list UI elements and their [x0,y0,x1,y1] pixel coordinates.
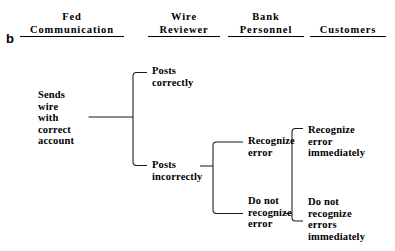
bracket-bank-personnel [213,142,243,214]
column-header-line1: Wire [148,10,220,23]
column-header-line1: Bank [228,10,304,23]
column-header-line2: Reviewer [148,23,220,37]
node-line: correctly [152,77,193,89]
node-line: Do not [248,195,292,207]
column-header-bank-personnel: Bank Personnel [228,10,304,37]
node-line: correct [38,124,74,136]
column-header-line1: Fed [20,10,124,23]
column-header-line2: Customers [310,23,386,37]
node-line: immediately [308,147,365,159]
node-line: Posts [152,65,193,77]
node-sends-wire-with-correct-account: Sends wire with correct account [38,89,74,147]
column-header-fed-communication: Fed Communication [20,10,124,37]
column-header-wire-reviewer: Wire Reviewer [148,10,220,37]
node-do-not-recognize-error: Do not recognize error [248,195,292,230]
node-line: account [38,135,74,147]
panel-label: b [6,32,14,45]
node-line: error [248,218,292,230]
node-recognize-error: Recognize error [248,135,295,158]
node-line: with [38,112,74,124]
node-line: error [308,136,365,148]
node-line: Sends [38,89,74,101]
node-line: Posts [152,159,202,171]
column-header-line2: Personnel [228,23,304,37]
node-line: recognize [248,207,292,219]
node-line: incorrectly [152,171,202,183]
bracket-wire-reviewer [133,73,147,166]
node-line: wire [38,101,74,113]
node-posts-correctly: Posts correctly [152,65,193,88]
diagram-canvas: b Fed Communication Wire Reviewer Bank P… [0,0,395,251]
node-line: Do not [308,196,365,208]
node-line: recognize [308,208,365,220]
node-posts-incorrectly: Posts incorrectly [152,159,202,182]
node-recognize-error-immediately: Recognize error immediately [308,124,365,159]
node-line: Recognize [248,135,295,147]
node-line: immediately [308,231,365,243]
node-line: errors [308,219,365,231]
column-header-customers: Customers [310,23,386,37]
node-line: error [248,147,295,159]
node-do-not-recognize-errors-immediately: Do not recognize errors immediately [308,196,365,242]
node-line: Recognize [308,124,365,136]
column-header-line2: Communication [20,23,124,37]
